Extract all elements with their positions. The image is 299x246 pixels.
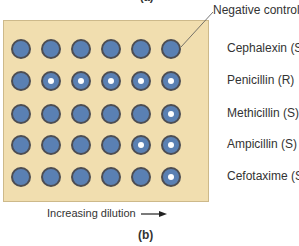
dilution-label: Increasing dilution xyxy=(47,207,136,219)
negative-control-label: Negative control xyxy=(213,3,299,17)
dilution-axis: Increasing dilution xyxy=(47,207,167,219)
row-label-penicillin: Penicillin (R) xyxy=(227,73,294,87)
panel-label: (b) xyxy=(138,228,153,242)
row-label-cephalexin: Cephalexin (S) xyxy=(227,41,299,55)
row-label-ampicillin: Ampicillin (S) xyxy=(227,137,297,151)
right-arrow-icon xyxy=(141,210,167,218)
row-label-cefotaxime: Cefotaxime (S) xyxy=(227,169,299,183)
row-label-methicillin: Methicillin (S) xyxy=(227,106,299,120)
